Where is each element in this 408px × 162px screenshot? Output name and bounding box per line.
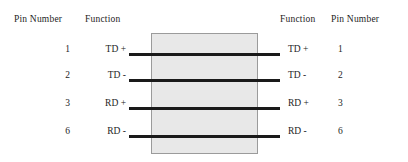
wire-line — [129, 79, 280, 82]
left-pin-number: 1 — [65, 45, 70, 55]
right-function: RD - — [288, 127, 307, 137]
right-pin-number: 1 — [338, 45, 343, 55]
left-function: RD - — [107, 127, 126, 137]
right-pin-number: 3 — [338, 99, 343, 109]
header-right-pin-number: Pin Number — [331, 15, 379, 25]
right-function: TD + — [288, 45, 308, 55]
left-pin-number: 6 — [65, 127, 70, 137]
wire-line — [129, 135, 280, 138]
header-left-function: Function — [85, 15, 120, 25]
wire-line — [129, 107, 280, 110]
wire-line — [129, 53, 280, 56]
right-pin-number: 2 — [338, 71, 343, 81]
right-pin-number: 6 — [338, 127, 343, 137]
left-function: TD + — [106, 45, 126, 55]
pinout-diagram: Pin Number Function Function Pin Number … — [0, 0, 408, 162]
right-function: TD - — [288, 71, 306, 81]
left-function: TD - — [108, 71, 126, 81]
left-function: RD + — [105, 99, 126, 109]
right-function: RD + — [288, 99, 309, 109]
left-pin-number: 2 — [65, 71, 70, 81]
header-right-function: Function — [280, 15, 315, 25]
left-pin-number: 3 — [65, 99, 70, 109]
header-left-pin-number: Pin Number — [14, 15, 62, 25]
